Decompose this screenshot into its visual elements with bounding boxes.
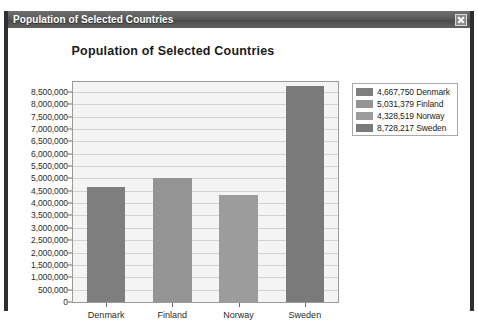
bars-group [73, 82, 338, 302]
x-axis-tick-label: Norway [223, 310, 254, 320]
legend-swatch [356, 100, 373, 108]
legend-item[interactable]: 4,328,519 Norway [355, 110, 455, 121]
y-axis-tick-label: 3,500,000 [31, 210, 68, 220]
chart-legend: 4,667,750 Denmark5,031,379 Finland4,328,… [352, 83, 458, 136]
plot-area [72, 81, 339, 303]
legend-swatch [356, 112, 373, 120]
y-axis-tick-label: 1,000,000 [31, 272, 68, 282]
x-axis-tick-mark [106, 303, 107, 307]
legend-label: 4,328,519 Norway [377, 111, 444, 121]
y-axis-tick-label: 6,500,000 [31, 136, 68, 146]
x-axis-tick-label: Denmark [88, 310, 125, 320]
legend-label: 5,031,379 Finland [377, 99, 443, 109]
bar-sweden[interactable] [286, 86, 324, 302]
y-axis-tick-label: 6,000,000 [31, 149, 68, 159]
legend-swatch [356, 124, 373, 132]
legend-swatch [356, 88, 373, 96]
x-axis-tick-mark [305, 303, 306, 307]
bar-denmark[interactable] [87, 187, 125, 302]
y-axis-tick-label: 7,000,000 [31, 124, 68, 134]
window-title: Population of Selected Countries [13, 14, 173, 25]
x-axis: DenmarkFinlandNorwaySweden [72, 303, 339, 324]
bar-finland[interactable] [153, 178, 191, 302]
window-titlebar[interactable]: Population of Selected Countries [8, 11, 470, 28]
y-axis-tick-label: 500,000 [38, 285, 68, 295]
window-client-area: Population of Selected Countries 8,500,0… [8, 28, 470, 311]
legend-item[interactable]: 4,667,750 Denmark [355, 86, 455, 97]
y-axis-tick-label: 2,000,000 [31, 248, 68, 258]
chart-window: Population of Selected Countries Populat… [4, 11, 474, 311]
y-axis-tick-label: 5,500,000 [31, 161, 68, 171]
y-axis-tick-label: 2,500,000 [31, 235, 68, 245]
legend-label: 8,728,217 Sweden [377, 123, 446, 133]
y-axis-tick-label: 8,000,000 [31, 99, 68, 109]
x-axis-tick-mark [239, 303, 240, 307]
y-axis-tick-label: 7,500,000 [31, 112, 68, 122]
legend-label: 4,667,750 Denmark [377, 87, 450, 97]
y-axis-tick-label: 4,500,000 [31, 186, 68, 196]
x-axis-tick-label: Sweden [289, 310, 322, 320]
chart-title: Population of Selected Countries [8, 44, 338, 58]
x-axis-tick-mark [172, 303, 173, 307]
y-axis-tick-label: 5,000,000 [31, 173, 68, 183]
y-axis-tick-label: 8,500,000 [31, 87, 68, 97]
legend-item[interactable]: 8,728,217 Sweden [355, 122, 455, 133]
y-axis-tick-label: 3,000,000 [31, 223, 68, 233]
x-axis-tick-label: Finland [158, 310, 188, 320]
close-icon [457, 16, 465, 24]
legend-item[interactable]: 5,031,379 Finland [355, 98, 455, 109]
y-axis-tick-label: 1,500,000 [31, 260, 68, 270]
y-axis-tick-label: 4,000,000 [31, 198, 68, 208]
close-button[interactable] [455, 14, 467, 26]
bar-norway[interactable] [219, 195, 257, 302]
y-axis: 8,500,0008,000,0007,500,0007,000,0006,50… [8, 81, 72, 303]
